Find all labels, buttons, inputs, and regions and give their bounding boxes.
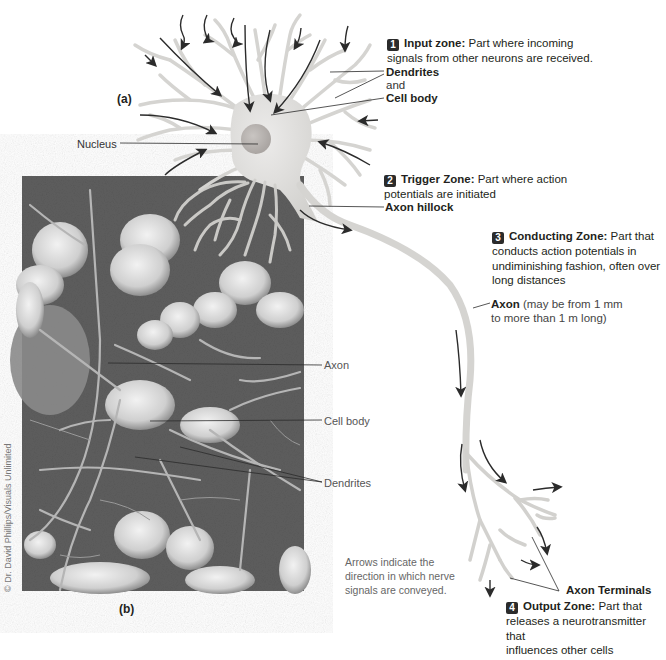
micrograph-label-cell-body: Cell body (324, 414, 370, 428)
zone-3-desc: Part that (611, 230, 654, 242)
label-axon-note-2: to more than 1 m long) (491, 311, 607, 325)
zone-2-trigger: 2Trigger Zone: Part where action potenti… (384, 172, 567, 202)
nucleus-shape (241, 124, 271, 154)
zone-4-desc-2: releases a neurotransmitter that (506, 614, 666, 643)
panel-a-label: (a) (117, 92, 132, 106)
zone-4-title: Output Zone: (523, 600, 595, 612)
micrograph-label-axon: Axon (324, 358, 349, 372)
zone-1-desc: Part where incoming (469, 37, 574, 49)
neuron-figure: (a) (b) © Dr. David Phillips/Visuals Unl… (0, 0, 666, 660)
zone-4-output: 4Output Zone: Part that releases a neuro… (506, 599, 666, 658)
micrograph-label-dendrites: Dendrites (324, 476, 371, 490)
zone-3-desc-4: long distances (492, 273, 660, 288)
zone-4-badge: 4 (506, 602, 518, 614)
label-axon-hillock: Axon hillock (385, 200, 453, 214)
zone-4-desc-3: influences other cells (506, 643, 666, 658)
zone-3-title: Conducting Zone: (509, 230, 607, 242)
label-axon-note-1: (may be from 1 mm (523, 298, 623, 310)
label-and: and (386, 78, 405, 92)
zone-2-desc: Part where action (478, 173, 568, 185)
panel-b-label: (b) (119, 602, 134, 616)
label-dendrites: Dendrites (386, 65, 439, 79)
label-axon-terminals: Axon Terminals (566, 583, 651, 597)
micrograph-panel (10, 176, 311, 594)
label-axon-title: Axon (491, 298, 520, 310)
zone-3-badge: 3 (492, 232, 504, 244)
zone-3-desc-2: conducts action potentials in (492, 244, 660, 259)
zone-1-badge: 1 (387, 39, 399, 51)
axon-terminals-shape (466, 450, 555, 580)
arrows-note-2: direction in which nerve (345, 569, 455, 583)
label-axon: Axon (may be from 1 mm (491, 297, 623, 311)
zone-2-badge: 2 (384, 175, 396, 187)
neuron-illustration (0, 0, 666, 660)
zone-1-input: 1Input zone: Part where incoming signals… (387, 36, 593, 66)
arrows-note-3: signals are conveyed. (345, 583, 455, 597)
zone-2-title: Trigger Zone: (401, 173, 474, 185)
label-cell-body: Cell body (386, 91, 438, 105)
zone-1-desc-2: signals from other neurons are received. (387, 51, 593, 66)
zone-1-title: Input zone: (404, 37, 465, 49)
arrows-note-1: Arrows indicate the (345, 555, 455, 569)
zone-3-conducting: 3Conducting Zone: Part that conducts act… (492, 229, 660, 288)
photo-credit: © Dr. David Phillips/Visuals Unlimited (3, 443, 13, 592)
zone-3-desc-3: undiminishing fashion, often over (492, 259, 660, 274)
label-nucleus: Nucleus (77, 137, 117, 151)
zone-4-desc: Part that (598, 600, 641, 612)
arrows-note: Arrows indicate the direction in which n… (345, 555, 455, 597)
